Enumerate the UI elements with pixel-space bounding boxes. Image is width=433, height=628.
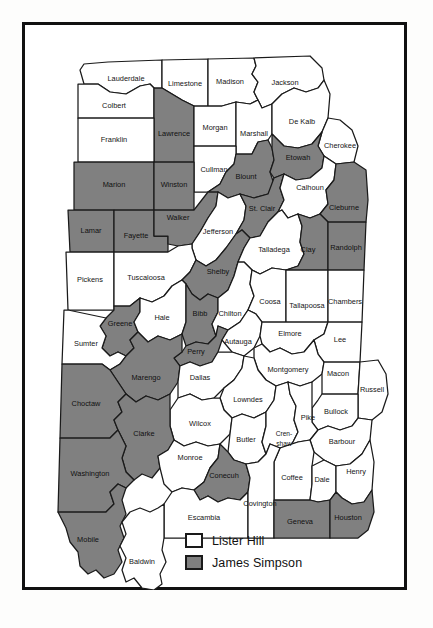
label-bibb: Bibb — [193, 309, 208, 318]
label-sumter: Sumter — [74, 339, 98, 348]
label-conecuh: Conecuh — [209, 471, 239, 480]
label-coffee: Coffee — [281, 473, 303, 482]
label-stclair: St. Clair — [249, 204, 276, 213]
label-lauderdale: Lauderdale — [108, 74, 145, 83]
label-marengo: Marengo — [131, 373, 160, 382]
label-morgan: Morgan — [202, 123, 227, 132]
label-baldwin: Baldwin — [129, 557, 155, 566]
label-bullock: Bullock — [324, 407, 348, 416]
label-coosa: Coosa — [259, 297, 281, 306]
label-choctaw: Choctaw — [72, 399, 101, 408]
label-barbour: Barbour — [329, 437, 356, 446]
alabama-county-map: Lauderdale Limestone Madison Jackson Col… — [22, 22, 407, 590]
label-lawrence: Lawrence — [158, 129, 190, 138]
label-tuscaloosa: Tuscaloosa — [127, 273, 165, 282]
label-marshall: Marshall — [240, 129, 268, 138]
label-cleburne: Cleburne — [329, 203, 359, 212]
label-elmore: Elmore — [278, 329, 301, 338]
county-baldwin[interactable] — [120, 504, 166, 590]
label-crenshaw-line2: shaw — [276, 440, 292, 447]
label-jefferson: Jefferson — [203, 227, 233, 236]
label-jackson: Jackson — [271, 78, 298, 87]
legend-swatch-white — [185, 533, 203, 548]
label-cullman: Cullman — [200, 165, 227, 174]
county-macon[interactable] — [322, 362, 360, 394]
label-geneva: Geneva — [287, 517, 314, 526]
label-perry: Perry — [187, 347, 205, 356]
label-greene: Greene — [108, 319, 133, 328]
figure-root: Lauderdale Limestone Madison Jackson Col… — [0, 0, 433, 628]
label-crenshaw-line1: Cren- — [276, 430, 293, 437]
label-mobile: Mobile — [77, 535, 99, 544]
legend-swatch-gray — [185, 555, 203, 570]
label-shelby: Shelby — [207, 267, 230, 276]
label-pickens: Pickens — [77, 275, 103, 284]
label-cherokee: Cherokee — [324, 141, 356, 150]
label-lowndes: Lowndes — [233, 395, 263, 404]
label-pike: Pike — [301, 413, 315, 422]
label-clarke: Clarke — [133, 429, 154, 438]
label-lamar: Lamar — [81, 226, 102, 235]
label-autauga: Autauga — [224, 337, 252, 346]
label-dallas: Dallas — [190, 373, 211, 382]
label-limestone: Limestone — [168, 79, 202, 88]
label-covington: Covington — [243, 499, 276, 508]
label-fayette: Fayette — [124, 231, 149, 240]
label-escambia: Escambia — [188, 513, 221, 522]
label-wilcox: Wilcox — [189, 419, 211, 428]
label-macon: Macon — [327, 369, 349, 378]
label-walker: Walker — [167, 213, 190, 222]
label-dale: Dale — [314, 475, 329, 484]
label-chambers: Chambers — [328, 297, 362, 306]
label-randolph: Randolph — [330, 243, 362, 252]
label-madison: Madison — [216, 77, 244, 86]
label-butler: Butler — [236, 435, 256, 444]
map-svg: Lauderdale Limestone Madison Jackson Col… — [22, 22, 407, 590]
county-tallapoosa[interactable] — [286, 270, 328, 322]
label-russell: Russell — [360, 385, 385, 394]
label-franklin: Franklin — [101, 135, 127, 144]
legend-item-lister-hill[interactable]: Lister Hill — [185, 533, 355, 548]
label-clay: Clay — [301, 245, 316, 254]
label-etowah: Etowah — [286, 153, 311, 162]
label-houston: Houston — [334, 513, 362, 522]
label-henry: Henry — [346, 467, 366, 476]
label-marion: Marion — [103, 180, 126, 189]
label-chilton: Chilton — [218, 309, 241, 318]
map-legend: Lister Hill James Simpson — [185, 533, 355, 577]
legend-item-james-simpson[interactable]: James Simpson — [185, 555, 355, 570]
label-calhoun: Calhoun — [296, 183, 324, 192]
label-talladega: Talladega — [258, 245, 291, 254]
label-winston: Winston — [161, 180, 188, 189]
legend-label-lister-hill: Lister Hill — [212, 534, 265, 548]
label-montgomery: Montgomery — [267, 365, 308, 374]
label-hale: Hale — [154, 313, 169, 322]
label-washington: Washington — [71, 469, 110, 478]
label-lee: Lee — [334, 335, 346, 344]
label-colbert: Colbert — [102, 101, 126, 110]
legend-label-james-simpson: James Simpson — [212, 556, 302, 570]
label-dekalb: De Kalb — [289, 117, 315, 126]
label-blount: Blount — [236, 172, 257, 181]
label-monroe: Monroe — [177, 453, 202, 462]
label-tallapoosa: Tallapoosa — [289, 301, 325, 310]
